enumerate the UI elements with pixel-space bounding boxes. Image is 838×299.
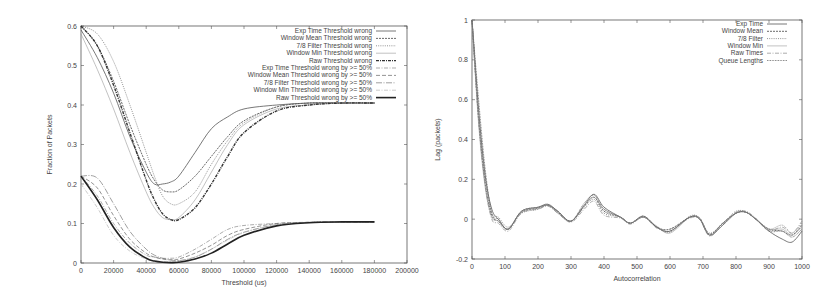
x-tick-label: 0 xyxy=(470,263,474,270)
y-tick-label: 0.4 xyxy=(458,136,468,143)
figure-canvas: 0200004000060000800001000001200001400001… xyxy=(0,0,838,299)
y-tick-label: 0.1 xyxy=(67,220,77,227)
y-axis-label: Lag (packets) xyxy=(434,118,442,160)
legend-entry-label: Window Min xyxy=(728,42,764,49)
x-axis-label: Autocorrelation xyxy=(613,275,660,282)
autocorrelation-chart: 01002003004005006007008009001000-0.200.2… xyxy=(434,17,810,283)
y-tick-label: -0.2 xyxy=(456,256,468,263)
legend-entry-label: 7/8 Filter xyxy=(738,35,764,42)
legend-entry-label: Raw Threshold wrong by >= 50% xyxy=(276,94,372,102)
x-tick-label: 200000 xyxy=(395,267,418,274)
x-tick-label: 300 xyxy=(565,263,577,270)
legend: Exp Time Threshold wrongWindow Mean Thre… xyxy=(248,27,396,102)
x-tick-label: 80000 xyxy=(202,267,222,274)
series-line xyxy=(81,176,374,258)
x-tick-label: 100 xyxy=(499,263,511,270)
x-tick-label: 100000 xyxy=(232,267,255,274)
x-tick-label: 60000 xyxy=(169,267,189,274)
series-line xyxy=(81,175,374,260)
x-tick-label: 500 xyxy=(631,263,643,270)
x-tick-label: 160000 xyxy=(330,267,353,274)
x-axis-label: Threshold (us) xyxy=(221,279,266,287)
x-tick-label: 200 xyxy=(532,263,544,270)
series-line xyxy=(81,176,374,263)
x-tick-label: 40000 xyxy=(136,267,156,274)
x-tick-label: 900 xyxy=(763,263,775,270)
y-tick-label: 1 xyxy=(464,17,468,24)
y-tick-label: 0.6 xyxy=(67,23,77,30)
x-tick-label: 700 xyxy=(697,263,709,270)
y-tick-label: 0 xyxy=(73,260,77,267)
series-line xyxy=(81,176,374,260)
y-tick-label: 0 xyxy=(464,216,468,223)
y-tick-label: 0.3 xyxy=(67,141,77,148)
x-tick-label: 800 xyxy=(730,263,742,270)
x-tick-label: 20000 xyxy=(104,267,124,274)
x-tick-label: 400 xyxy=(598,263,610,270)
x-tick-label: 1000 xyxy=(794,263,810,270)
legend: Exp TimeWindow Mean7/8 FilterWindow MinR… xyxy=(719,20,787,65)
y-tick-label: 0.6 xyxy=(458,96,468,103)
y-tick-label: 0.4 xyxy=(67,102,77,109)
x-tick-label: 140000 xyxy=(298,267,321,274)
threshold-error-chart: 0200004000060000800001000001200001400001… xyxy=(46,23,419,288)
x-tick-label: 600 xyxy=(664,263,676,270)
legend-entry-label: Window Mean xyxy=(722,27,764,34)
y-tick-label: 0.8 xyxy=(458,56,468,63)
y-tick-label: 0.2 xyxy=(458,176,468,183)
legend-entry-label: Raw Times xyxy=(731,49,764,56)
y-tick-label: 0.2 xyxy=(67,181,77,188)
y-tick-label: 0.5 xyxy=(67,62,77,69)
x-tick-label: 120000 xyxy=(265,267,288,274)
x-tick-label: 0 xyxy=(79,267,83,274)
legend-entry-label: Queue Lengths xyxy=(719,57,764,65)
x-tick-label: 180000 xyxy=(363,267,386,274)
y-axis-label: Fraction of Packets xyxy=(46,114,53,174)
